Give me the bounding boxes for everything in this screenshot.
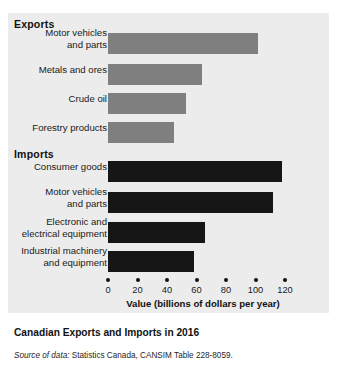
axis-tick-dot [165, 278, 169, 282]
bar [108, 192, 273, 213]
figure-source: Source of data: Statistics Canada, CANSI… [14, 351, 233, 360]
bar-label: Motor vehicles and parts [0, 186, 107, 209]
axis-tick-dot [283, 278, 287, 282]
bar [108, 222, 205, 243]
bar-label: Motor vehicles and parts [0, 27, 107, 50]
bar [108, 93, 186, 114]
axis-tick-dot [106, 278, 110, 282]
figure-caption: Canadian Exports and Imports in 2016 [14, 327, 199, 338]
bar [108, 161, 282, 182]
axis-tick-label: 80 [221, 285, 231, 295]
axis-tick-label: 0 [105, 285, 110, 295]
bar [108, 33, 258, 54]
axis-tick-label: 100 [248, 285, 264, 295]
bar-label: Industrial machinery and equipment [0, 245, 107, 268]
bar [108, 122, 174, 143]
group-heading-imports: Imports [14, 148, 54, 160]
axis-tick-label: 20 [132, 285, 142, 295]
bar-label: Forestry products [0, 122, 107, 134]
source-text: Statistics Canada, CANSIM Table 228-8059… [70, 351, 233, 360]
source-lead: Source of data: [14, 351, 70, 360]
axis-tick-label: 40 [162, 285, 172, 295]
bar [108, 251, 194, 272]
bar [108, 64, 202, 85]
bar-label: Electronic and electrical equipment [0, 216, 107, 239]
axis-tick-dot [195, 278, 199, 282]
axis-tick-label: 120 [277, 285, 293, 295]
axis-tick-label: 60 [191, 285, 201, 295]
figure: Exports Imports Motor vehicles and parts… [0, 0, 337, 383]
bar-label: Consumer goods [0, 161, 107, 173]
bar-label: Crude oil [0, 93, 107, 105]
axis-tick-dot [224, 278, 228, 282]
axis-tick-dot [254, 278, 258, 282]
axis-tick-dot [136, 278, 140, 282]
bar-label: Metals and ores [0, 64, 107, 76]
x-axis-title: Value (billions of dollars per year) [108, 298, 298, 309]
x-axis: Value (billions of dollars per year) 020… [0, 276, 321, 316]
